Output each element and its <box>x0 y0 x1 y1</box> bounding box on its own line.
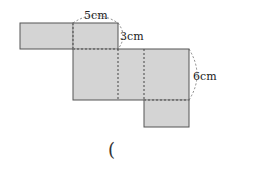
face-top-left <box>20 23 73 49</box>
net-faces <box>20 23 189 127</box>
cuboid-net-diagram: 5cm 3cm 6cm ( <box>0 0 256 171</box>
label-5cm: 5cm <box>84 9 108 22</box>
face-bottom <box>144 100 189 127</box>
face-top <box>73 23 118 49</box>
label-6cm: 6cm <box>193 70 217 83</box>
face-middle-strip <box>73 49 189 100</box>
label-3cm: 3cm <box>120 30 144 43</box>
answer-paren: ( <box>108 139 115 160</box>
